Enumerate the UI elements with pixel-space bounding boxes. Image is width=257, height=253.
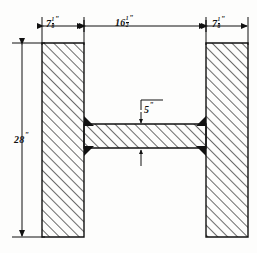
dimension-label-clear-span: 1612": [115, 13, 133, 29]
fillet-top-left: [84, 116, 94, 126]
web: [84, 124, 206, 148]
dimension-label-web-thickness: 5": [144, 100, 154, 116]
dimension-label-right-flange: 718": [212, 14, 225, 30]
fillet-bottom-right: [196, 146, 206, 156]
fillet-top-right: [196, 116, 206, 126]
drawing-canvas: 718" 1612" 718" 28" 5": [0, 0, 257, 253]
left-flange: [42, 43, 84, 237]
dimension-label-overall-height: 28": [14, 130, 29, 146]
beam-body: [42, 43, 248, 237]
beam-section-drawing: [0, 0, 257, 253]
dimension-label-left-flange: 718": [46, 14, 59, 30]
right-flange: [206, 43, 248, 237]
fillet-bottom-left: [84, 146, 94, 156]
